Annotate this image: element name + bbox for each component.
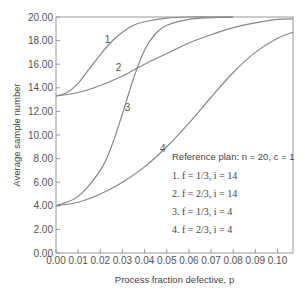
x-tick-label: 0.00: [46, 255, 66, 266]
x-tick-label: 0.10: [268, 255, 288, 266]
y-axis-label: Average sample number: [11, 83, 22, 186]
y-tick-label: 14.00: [28, 82, 53, 93]
legend-entry: 4. f = 2/3, i = 4: [172, 224, 232, 235]
y-tick-label: 4.00: [34, 200, 54, 211]
x-axis-label: Process fraction defective, p: [115, 274, 234, 285]
y-tick-label: 10.00: [28, 130, 53, 141]
x-tick-label: 0.04: [135, 255, 155, 266]
x-tick-label: 0.09: [246, 255, 266, 266]
x-tick-label: 0.02: [91, 255, 111, 266]
y-tick-label: 6.00: [34, 177, 54, 188]
curve-1: [56, 17, 233, 96]
y-tick-label: 20.00: [28, 12, 53, 23]
y-tick-label: 12.00: [28, 106, 53, 117]
curve-label: 2: [116, 62, 122, 73]
y-tick-label: 16.00: [28, 59, 53, 70]
legend-entry: 1. f = 1/3, i = 14: [172, 170, 237, 181]
legend-title: Reference plan: n = 20, c = 1: [172, 151, 295, 162]
curve-label: 4: [160, 143, 166, 154]
chart: 0.002.004.006.008.0010.0012.0014.0016.00…: [0, 0, 305, 293]
legend-entry: 3. f = 1/3, i = 4: [172, 206, 232, 217]
y-tick-label: 8.00: [34, 153, 54, 164]
y-tick-label: 2.00: [34, 224, 54, 235]
curve-label: 1: [105, 34, 111, 45]
plot-frame: [56, 17, 293, 253]
y-tick-label: 18.00: [28, 35, 53, 46]
x-tick-label: 0.06: [179, 255, 199, 266]
x-tick-label: 0.05: [157, 255, 177, 266]
x-tick-label: 0.03: [113, 255, 133, 266]
x-tick-label: 0.08: [223, 255, 243, 266]
x-tick-label: 0.07: [201, 255, 221, 266]
legend-entry: 2. f = 2/3, i = 14: [172, 188, 237, 199]
curve-label: 3: [125, 102, 131, 113]
curve-2: [56, 19, 293, 96]
x-tick-label: 0.01: [68, 255, 88, 266]
